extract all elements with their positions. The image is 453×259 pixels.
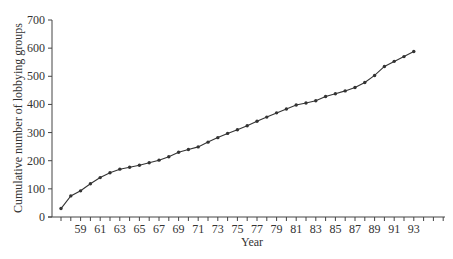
data-point-marker [373,74,376,77]
x-tick-label: 63 [114,222,126,236]
data-point-marker [187,148,190,151]
data-point-marker [285,107,288,110]
data-point-marker [363,81,366,84]
y-tick-label: 0 [39,210,45,224]
data-point-marker [265,115,268,118]
y-tick-label: 100 [27,182,45,196]
data-point-marker [246,124,249,127]
data-point-marker [383,65,386,68]
data-point-marker [108,171,111,174]
data-point-marker [157,158,160,161]
data-point-marker [167,155,170,158]
x-tick-label: 93 [408,222,420,236]
y-tick-label: 200 [27,154,45,168]
x-tick-label: 71 [192,222,204,236]
x-tick-label: 61 [94,222,106,236]
data-point-marker [295,103,298,106]
data-point-marker [412,50,415,53]
plot-area [59,50,415,210]
x-tick-label: 79 [271,222,283,236]
x-tick-label: 75 [231,222,243,236]
data-point-marker [138,164,141,167]
data-point-marker [344,89,347,92]
y-tick-label: 600 [27,41,45,55]
x-tick-label: 91 [388,222,400,236]
x-tick-label: 69 [173,222,185,236]
data-point-marker [197,145,200,148]
data-point-marker [236,128,239,131]
x-tick-label: 85 [329,222,341,236]
x-axis-title: Year [241,235,263,249]
data-point-marker [393,60,396,63]
data-point-marker [304,101,307,104]
x-tick-label: 77 [251,222,263,236]
data-point-marker [255,120,258,123]
data-point-marker [79,189,82,192]
line-chart: 0100200300400500600700 59616365676971737… [0,0,453,259]
data-point-marker [353,86,356,89]
data-point-marker [128,165,131,168]
data-point-marker [402,55,405,58]
data-point-marker [226,132,229,135]
x-tick-label: 87 [349,222,361,236]
data-point-marker [216,136,219,139]
data-point-marker [118,167,121,170]
x-tick-label: 83 [310,222,322,236]
data-point-marker [148,161,151,164]
data-point-marker [206,140,209,143]
y-tick-label: 500 [27,69,45,83]
data-point-marker [177,151,180,154]
data-point-marker [275,111,278,114]
x-tick-label: 67 [153,222,165,236]
x-tick-label: 65 [133,222,145,236]
x-tick-label: 59 [75,222,87,236]
data-point-marker [89,182,92,185]
y-tick-label: 700 [27,13,45,27]
data-point-marker [334,92,337,95]
x-axis: 596163656769717375777981838587899193 [48,217,445,236]
x-tick-label: 89 [369,222,381,236]
x-tick-label: 73 [212,222,224,236]
y-tick-label: 300 [27,126,45,140]
data-point-marker [324,95,327,98]
y-axis: 0100200300400500600700 [27,13,52,224]
data-point-marker [69,194,72,197]
y-tick-label: 400 [27,97,45,111]
data-point-marker [99,176,102,179]
x-tick-label: 81 [290,222,302,236]
data-point-marker [314,99,317,102]
data-point-marker [59,207,62,210]
y-axis-title: Cumulative number of lobbying groups [11,23,25,213]
